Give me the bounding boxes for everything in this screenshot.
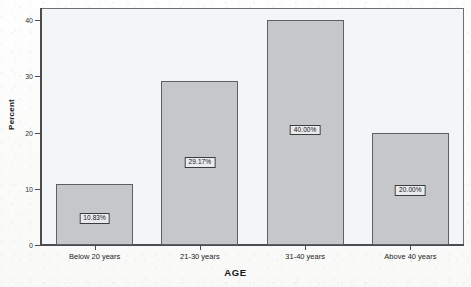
x-axis-title: AGE	[0, 267, 471, 278]
y-axis-tick-mark	[35, 189, 40, 190]
bar[interactable]: 29.17%	[161, 81, 238, 245]
y-axis-tick-label: 30	[5, 73, 33, 80]
y-axis-tick-label: 40	[5, 17, 33, 24]
bar[interactable]: 20.00%	[372, 133, 449, 246]
bar[interactable]: 40.00%	[267, 20, 344, 245]
y-axis-title: Percent	[7, 87, 16, 143]
bar-value-label: 20.00%	[395, 185, 426, 196]
x-axis-tick-label: 21-30 years	[180, 252, 220, 261]
y-axis-tick-mark	[35, 245, 40, 246]
bar-value-label: 10.83%	[79, 213, 110, 224]
y-axis-tick-group: 010203040	[0, 0, 33, 287]
y-axis-tick-label: 10	[5, 185, 33, 192]
bar[interactable]: 10.83%	[56, 184, 133, 245]
y-axis-tick-mark	[35, 20, 40, 21]
x-axis-tick-label: 31-40 years	[285, 252, 325, 261]
y-axis-tick-label: 0	[5, 242, 33, 249]
x-axis-tick-mark	[95, 246, 96, 250]
x-axis-tick-label: Above 40 years	[384, 252, 436, 261]
x-axis-tick-mark	[410, 246, 411, 250]
chart-screenshot: the scanned page shows faint reverse-sid…	[0, 0, 471, 287]
bar-value-label: 40.00%	[290, 125, 321, 136]
bar-value-label: 29.17%	[185, 157, 216, 168]
x-axis-tick-label: Below 20 years	[69, 252, 120, 261]
x-axis-tick-mark	[305, 246, 306, 250]
plot-area: 10.83%29.17%40.00%20.00%	[41, 9, 463, 246]
y-axis-tick-mark	[35, 133, 40, 134]
y-axis-tick-mark	[35, 76, 40, 77]
x-axis-tick-mark	[200, 246, 201, 250]
